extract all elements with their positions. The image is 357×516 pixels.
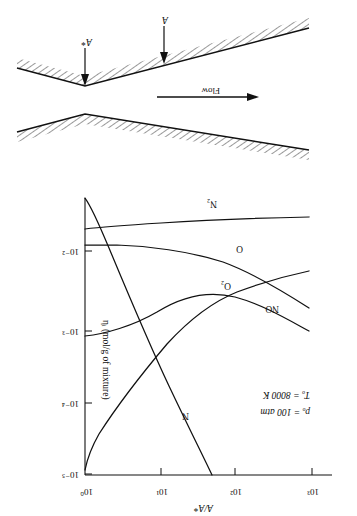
nozzle-upper-wall: [17, 114, 309, 160]
area-label-A: A: [162, 15, 168, 25]
flow-label: Flow: [201, 86, 220, 95]
nozzle-schematic: Flow A A*: [0, 0, 357, 516]
figure-root: 10³ 10² 10¹ 10⁰ A/A* 10⁻⁵ 10⁻⁴ 10⁻³ 10⁻²…: [0, 0, 357, 516]
nozzle-svg: [0, 0, 357, 516]
throat-label-Astar: A*: [81, 37, 92, 47]
